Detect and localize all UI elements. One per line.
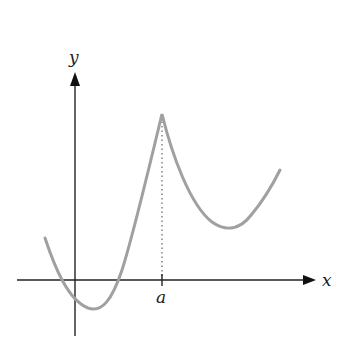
y-axis-label: y	[68, 47, 79, 67]
y-axis-arrow-icon	[70, 72, 80, 86]
tick-label-a: a	[156, 287, 166, 307]
x-axis-arrow-icon	[303, 275, 316, 285]
x-axis-label: x	[322, 270, 332, 290]
function-graph: y x a	[0, 0, 351, 340]
